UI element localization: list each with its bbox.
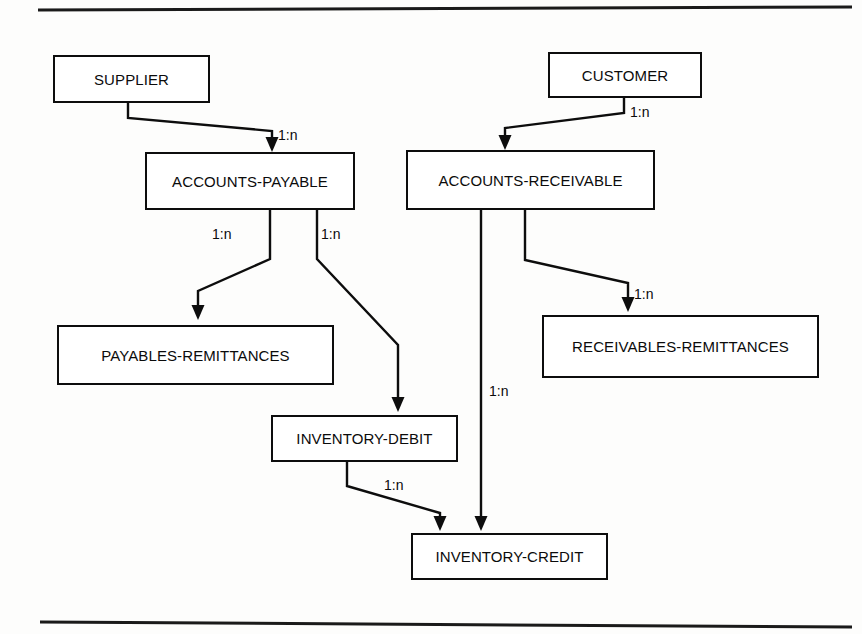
entity-box-accounts-receivable[interactable]: ACCOUNTS-RECEIVABLE	[406, 150, 655, 210]
entity-label-payables-remittances: PAYABLES-REMITTANCES	[101, 348, 289, 363]
entity-box-payables-remittances[interactable]: PAYABLES-REMITTANCES	[57, 325, 334, 385]
cardinality-label-accounts-payable-to-payables-remittances: 1:n	[212, 227, 231, 241]
entity-box-inventory-debit[interactable]: INVENTORY-DEBIT	[271, 415, 458, 462]
top-horizontal-rule	[38, 7, 852, 10]
entity-label-inventory-credit: INVENTORY-CREDIT	[435, 549, 583, 564]
entity-box-inventory-credit[interactable]: INVENTORY-CREDIT	[411, 533, 608, 580]
entity-label-inventory-debit: INVENTORY-DEBIT	[296, 431, 432, 446]
cardinality-label-accounts-payable-to-inventory-debit: 1:n	[321, 227, 340, 241]
entity-label-receivables-remittances: RECEIVABLES-REMITTANCES	[572, 339, 789, 354]
diagram-page: SUPPLIERCUSTOMERACCOUNTS-PAYABLEACCOUNTS…	[0, 0, 862, 634]
cardinality-label-inventory-debit-to-inventory-credit: 1:n	[384, 478, 403, 492]
entity-box-accounts-payable[interactable]: ACCOUNTS-PAYABLE	[145, 152, 355, 210]
cardinality-label-accounts-receivable-to-receivables-remittances: 1:n	[634, 287, 653, 301]
entity-box-receivables-remittances[interactable]: RECEIVABLES-REMITTANCES	[542, 315, 819, 378]
entity-box-supplier[interactable]: SUPPLIER	[53, 55, 210, 103]
entity-box-customer[interactable]: CUSTOMER	[548, 52, 702, 98]
cardinality-label-supplier-to-accounts-payable: 1:n	[278, 128, 297, 142]
entity-label-customer: CUSTOMER	[582, 68, 668, 83]
entity-label-supplier: SUPPLIER	[94, 72, 169, 87]
entity-label-accounts-payable: ACCOUNTS-PAYABLE	[172, 174, 328, 189]
cardinality-label-accounts-receivable-to-inventory-credit: 1:n	[489, 384, 508, 398]
entity-label-accounts-receivable: ACCOUNTS-RECEIVABLE	[438, 173, 622, 188]
bottom-horizontal-rule	[40, 622, 852, 627]
cardinality-label-customer-to-accounts-receivable: 1:n	[630, 105, 649, 119]
